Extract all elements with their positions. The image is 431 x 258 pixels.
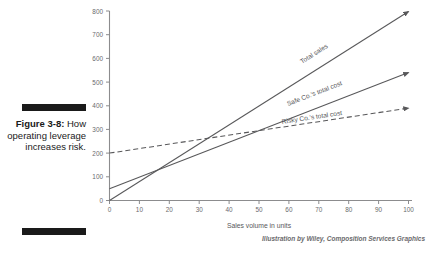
y-tick-label: 0 <box>99 197 103 204</box>
y-tick-label: 200 <box>92 150 103 157</box>
series-label-total-sales: Total sales <box>299 42 330 65</box>
series-label-risky-co-total-cost: Risky Co.'s total cost <box>281 109 343 126</box>
y-tick-label: 800 <box>92 8 103 15</box>
y-axis-ticks: 0 100 200 300 400 500 600 700 800 <box>92 8 109 205</box>
x-tick-label: 30 <box>196 206 204 213</box>
chart-plot-area: 0 100 200 300 400 500 600 700 800 <box>0 0 431 258</box>
x-tick-label: 100 <box>403 206 414 213</box>
y-tick-label: 500 <box>92 79 103 86</box>
x-tick-label: 70 <box>315 206 323 213</box>
x-tick-label: 20 <box>166 206 174 213</box>
x-axis-ticks: 0 10 20 30 40 50 60 70 80 90 100 <box>108 201 415 214</box>
line-chart-svg: 0 100 200 300 400 500 600 700 800 <box>0 0 431 258</box>
x-tick-label: 80 <box>345 206 353 213</box>
x-tick-label: 60 <box>285 206 293 213</box>
x-axis-title: Sales volume in units <box>227 222 292 229</box>
x-tick-label: 0 <box>108 206 112 213</box>
series-line-total-sales <box>110 12 409 201</box>
x-tick-label: 50 <box>255 206 263 213</box>
y-tick-label: 600 <box>92 55 103 62</box>
data-series <box>110 12 409 201</box>
y-tick-label: 100 <box>92 173 103 180</box>
y-tick-label: 700 <box>92 31 103 38</box>
x-tick-label: 90 <box>375 206 383 213</box>
x-tick-label: 10 <box>136 206 144 213</box>
y-tick-label: 300 <box>92 126 103 133</box>
figure-3-8: Figure 3-8: How operating leverage incre… <box>0 0 431 258</box>
y-tick-label: 400 <box>92 102 103 109</box>
series-line-safe-co-total-cost <box>110 73 409 189</box>
series-labels: Total sales Safe Co.'s total cost Risky … <box>281 42 343 126</box>
illustration-credit: Illustration by Wiley, Composition Servi… <box>262 235 425 243</box>
x-tick-label: 40 <box>226 206 234 213</box>
